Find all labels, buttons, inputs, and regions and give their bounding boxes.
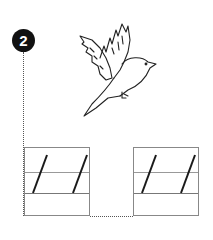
bird-illustration <box>66 22 166 122</box>
left-practice-box <box>24 147 90 216</box>
slanted-strokes <box>134 148 200 217</box>
exercise-number-badge: 2 <box>12 29 35 52</box>
right-practice-box <box>133 147 199 216</box>
dotted-guide-horizontal <box>90 216 133 217</box>
slanted-strokes <box>25 148 91 217</box>
